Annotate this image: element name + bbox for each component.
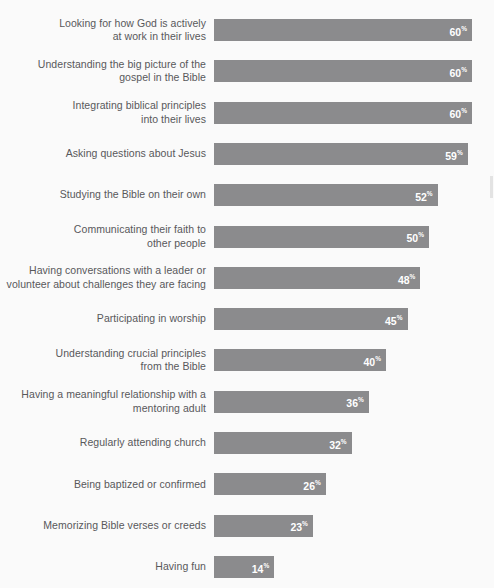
percent-sign: % <box>302 520 308 527</box>
horizontal-bar-chart: Looking for how God is actively at work … <box>0 0 494 588</box>
bar: 14% <box>214 556 274 578</box>
bar-value-number: 60 <box>450 108 462 120</box>
bar-value-number: 23 <box>290 521 302 533</box>
bar-value-label: 26% <box>303 472 325 497</box>
bar: 32% <box>214 432 352 454</box>
bar-value-label: 40% <box>364 348 386 373</box>
bar-track: 60% <box>214 54 494 88</box>
chart-row: Memorizing Bible verses or creeds23% <box>0 509 494 543</box>
bar-track: 60% <box>214 96 494 130</box>
bar: 45% <box>214 308 408 330</box>
bar-track: 48% <box>214 261 494 295</box>
category-label: Integrating biblical principles into the… <box>0 99 214 126</box>
percent-sign: % <box>315 479 321 486</box>
category-label: Having a meaningful relationship with a … <box>0 388 214 415</box>
bar-value-label: 48% <box>398 266 420 291</box>
bar: 50% <box>214 226 429 248</box>
chart-row: Being baptized or confirmed26% <box>0 467 494 501</box>
category-label: Being baptized or confirmed <box>0 478 214 492</box>
category-label: Understanding the big picture of the gos… <box>0 58 214 85</box>
bar-track: 40% <box>214 343 494 377</box>
chart-row: Having fun14% <box>0 550 494 584</box>
bar-value-number: 60 <box>450 67 462 79</box>
category-label: Having fun <box>0 560 214 574</box>
category-label: Memorizing Bible verses or creeds <box>0 519 214 533</box>
chart-row: Integrating biblical principles into the… <box>0 96 494 130</box>
category-label: Regularly attending church <box>0 436 214 450</box>
bar-value-number: 60 <box>450 25 462 37</box>
bar-value-number: 52 <box>415 190 427 202</box>
percent-sign: % <box>457 149 463 156</box>
bar-track: 23% <box>214 509 494 543</box>
percent-sign: % <box>410 273 416 280</box>
chart-row: Looking for how God is actively at work … <box>0 13 494 47</box>
bar: 52% <box>214 184 438 206</box>
bar-value-label: 32% <box>329 431 351 456</box>
category-label: Understanding crucial principles from th… <box>0 347 214 374</box>
bar-value-label: 60% <box>450 18 472 43</box>
chart-row: Understanding the big picture of the gos… <box>0 54 494 88</box>
bar-track: 36% <box>214 385 494 419</box>
chart-row: Regularly attending church32% <box>0 426 494 460</box>
bar-value-number: 59 <box>445 149 457 161</box>
bar-value-number: 14 <box>252 562 264 574</box>
bar-value-label: 59% <box>445 142 467 167</box>
percent-sign: % <box>461 66 467 73</box>
bar-value-label: 14% <box>252 555 274 580</box>
bar-value-number: 32 <box>329 438 341 450</box>
bar-track: 52% <box>214 178 494 212</box>
bar: 60% <box>214 60 472 82</box>
bar-value-number: 45 <box>385 314 397 326</box>
bar-value-number: 50 <box>407 232 419 244</box>
percent-sign: % <box>358 396 364 403</box>
percent-sign: % <box>263 562 269 569</box>
chart-row: Asking questions about Jesus59% <box>0 137 494 171</box>
bar-track: 32% <box>214 426 494 460</box>
percent-sign: % <box>375 355 381 362</box>
bar-track: 26% <box>214 467 494 501</box>
percent-sign: % <box>397 314 403 321</box>
bar-track: 14% <box>214 550 494 584</box>
bar-value-number: 36 <box>346 397 358 409</box>
bar-value-label: 60% <box>450 100 472 125</box>
chart-row: Participating in worship45% <box>0 302 494 336</box>
bar: 60% <box>214 19 472 41</box>
bar-value-number: 40 <box>364 356 376 368</box>
category-label: Participating in worship <box>0 312 214 326</box>
percent-sign: % <box>427 190 433 197</box>
chart-row: Communicating their faith to other peopl… <box>0 220 494 254</box>
percent-sign: % <box>341 438 347 445</box>
bar-value-number: 48 <box>398 273 410 285</box>
bar-track: 45% <box>214 302 494 336</box>
bar: 48% <box>214 267 420 289</box>
chart-row: Having a meaningful relationship with a … <box>0 385 494 419</box>
bar: 60% <box>214 102 472 124</box>
bar-value-label: 36% <box>346 389 368 414</box>
chart-row: Having conversations with a leader or vo… <box>0 261 494 295</box>
category-label: Studying the Bible on their own <box>0 188 214 202</box>
bar: 40% <box>214 349 386 371</box>
category-label: Communicating their faith to other peopl… <box>0 223 214 250</box>
bar-value-number: 26 <box>303 480 315 492</box>
bar: 59% <box>214 143 468 165</box>
percent-sign: % <box>418 231 424 238</box>
bar: 23% <box>214 515 313 537</box>
bar: 36% <box>214 391 369 413</box>
bar-value-label: 60% <box>450 59 472 84</box>
category-label: Looking for how God is actively at work … <box>0 17 214 44</box>
category-label: Having conversations with a leader or vo… <box>0 264 214 291</box>
bar-value-label: 45% <box>385 307 407 332</box>
bar-track: 50% <box>214 220 494 254</box>
percent-sign: % <box>461 25 467 32</box>
percent-sign: % <box>461 107 467 114</box>
chart-row: Understanding crucial principles from th… <box>0 343 494 377</box>
category-label: Asking questions about Jesus <box>0 147 214 161</box>
bar-value-label: 23% <box>290 513 312 538</box>
bar-value-label: 50% <box>407 224 429 249</box>
edge-artifact <box>490 176 493 198</box>
bar-track: 59% <box>214 137 494 171</box>
bar-track: 60% <box>214 13 494 47</box>
chart-row: Studying the Bible on their own52% <box>0 178 494 212</box>
bar-value-label: 52% <box>415 183 437 208</box>
bar: 26% <box>214 473 326 495</box>
